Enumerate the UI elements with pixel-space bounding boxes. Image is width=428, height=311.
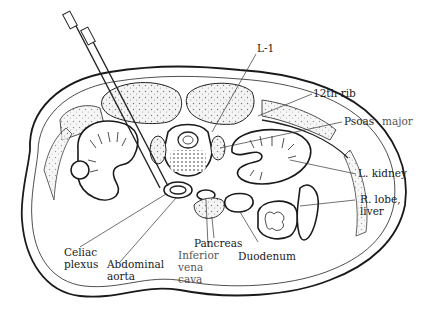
kidney-right-side [232,130,311,184]
label-liver: liver [360,205,385,217]
label-celiac: Celiac [64,246,97,258]
aorta [164,182,192,198]
syringe-hub-1 [63,11,78,29]
kidney-left-side [78,121,138,200]
label-psoas-major: major [382,115,414,127]
label-cava: cava [178,273,202,285]
psoas-left [150,136,166,164]
label-plexus: plexus [64,258,98,270]
label-aorta: aorta [107,270,135,282]
label-inferior: Inferior [178,249,220,261]
bowel-loop [71,161,89,179]
celiac-plexus-diagram: L-1 12th rib Psoas major L. kidney R. lo… [0,0,428,311]
pancreas [194,198,224,218]
label-12th-rib: 12th rib [313,87,356,99]
label-psoas: Psoas [344,115,374,127]
vertebra-l1 [164,125,212,177]
label-r-lobe: R. lobe, [360,193,401,205]
label-vena: vena [177,261,203,273]
liver-right-lobe [258,185,318,240]
label-l-kidney: L. kidney [358,167,407,179]
psoas-right [211,136,225,160]
label-l1: L-1 [257,42,274,54]
label-duodenum: Duodenum [238,250,296,262]
label-abdominal: Abdominal [106,258,165,270]
syringe-hub-2 [81,27,96,45]
label-pancreas: Pancreas [194,237,242,249]
duodenum [225,194,253,213]
